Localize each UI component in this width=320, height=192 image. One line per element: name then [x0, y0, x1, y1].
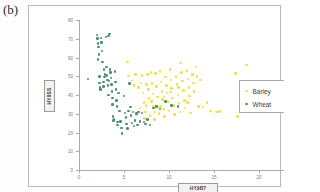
scatter-point-barley: [177, 86, 180, 89]
scatter-point-wheat: [120, 127, 123, 130]
scatter-point-barley: [131, 80, 134, 83]
scatter-point-barley: [159, 70, 162, 73]
scatter-point-barley: [126, 61, 129, 64]
scatter-point-barley: [218, 110, 221, 113]
scatter-point-barley: [186, 101, 189, 104]
scatter-point-wheat: [133, 125, 136, 128]
scatter-point-wheat: [141, 112, 144, 115]
scatter-point-barley: [191, 73, 194, 76]
legend-label-barley: Barley: [253, 88, 271, 95]
scatter-point-wheat: [139, 120, 142, 123]
scatter-point-barley: [245, 64, 248, 67]
y-tick-label: 30: [68, 111, 73, 116]
scatter-point-wheat: [115, 88, 118, 91]
scatter-point-wheat: [125, 123, 128, 126]
scatter-point-barley: [179, 62, 182, 65]
scatter-point-barley: [192, 82, 195, 85]
scatter-point-wheat: [121, 132, 124, 135]
scatter-point-barley: [141, 74, 144, 77]
legend-marker-wheat: [245, 103, 248, 106]
scatter-point-barley: [154, 72, 157, 75]
scatter-point-barley: [145, 83, 148, 86]
scatter-point-barley: [149, 114, 152, 117]
scatter-point-barley: [196, 75, 199, 78]
scatter-point-wheat: [136, 124, 139, 127]
x-tick: 10: [169, 170, 170, 173]
scatter-point-wheat: [98, 82, 101, 85]
scatter-point-wheat: [97, 42, 100, 45]
scatter-point-wheat: [132, 111, 135, 114]
scatter-point-barley: [177, 94, 180, 97]
scatter-point-barley: [155, 85, 158, 88]
x-axis-title: HY9B7: [178, 183, 218, 192]
scatter-point-wheat: [117, 92, 120, 95]
scatter-point-wheat: [159, 108, 162, 111]
scatter-point-barley: [163, 115, 166, 118]
legend-label-wheat: Wheat: [253, 101, 271, 108]
scatter-point-barley: [151, 82, 154, 85]
scatter-point-wheat: [101, 50, 104, 53]
scatter-point-barley: [164, 76, 167, 79]
scatter-point-barley: [173, 113, 176, 116]
scatter-point-wheat: [97, 46, 100, 49]
scatter-point-wheat: [87, 78, 90, 81]
scatter-point-barley: [179, 111, 182, 114]
scatter-point-barley: [142, 92, 145, 95]
scatter-point-wheat: [137, 111, 140, 114]
scatter-point-wheat: [100, 41, 103, 44]
scatter-point-wheat: [110, 83, 113, 86]
scatter-point-wheat: [127, 110, 130, 113]
scatter-point-barley: [156, 96, 159, 99]
scatter-point-wheat: [111, 103, 114, 106]
x-tick-label: 10: [166, 175, 171, 180]
scatter-point-wheat: [98, 53, 101, 56]
scatter-point-wheat: [124, 112, 127, 115]
scatter-point-wheat: [102, 81, 105, 84]
scatter-point-wheat: [107, 84, 110, 87]
scatter-point-wheat: [110, 77, 113, 80]
y-tick-label: 60: [68, 55, 73, 60]
scatter-point-barley: [193, 90, 196, 93]
scatter-point-wheat: [126, 127, 129, 130]
scatter-point-wheat: [149, 124, 152, 127]
scatter-point-barley: [197, 105, 200, 108]
scatter-point-wheat: [99, 88, 102, 91]
scatter-point-wheat: [114, 70, 117, 73]
x-tick: 15: [214, 170, 215, 173]
scatter-point-barley: [165, 84, 168, 87]
scatter-point-barley: [127, 75, 130, 78]
scatter-point-barley: [234, 72, 237, 75]
y-tick-label: 20: [68, 130, 73, 135]
y-axis-title-wrap: HY9SS: [39, 82, 71, 94]
scatter-point-barley: [199, 79, 202, 82]
y-tick: 20: [76, 133, 79, 134]
scatter-point-barley: [184, 107, 187, 110]
scatter-point-wheat: [116, 124, 119, 127]
scatter-point-barley: [153, 118, 156, 121]
figure-frame: 01020304050607080 0510152025 HY9B7 HY9SS…: [28, 5, 281, 187]
scatter-point-wheat: [129, 106, 132, 109]
scatter-point-wheat: [155, 105, 158, 108]
y-tick: 40: [76, 95, 79, 96]
scatter-point-barley: [170, 87, 173, 90]
scatter-point-barley: [145, 104, 148, 107]
scatter-point-barley: [161, 90, 164, 93]
scatter-point-barley: [160, 81, 163, 84]
legend-item-wheat: Wheat: [245, 99, 271, 109]
y-tick: 70: [76, 39, 79, 40]
y-tick-label: 80: [68, 18, 73, 23]
scatter-point-barley: [134, 73, 137, 76]
y-tick-label: 50: [68, 74, 73, 79]
scatter-point-wheat: [177, 105, 180, 108]
scatter-point-wheat: [164, 100, 167, 103]
scatter-point-wheat: [130, 114, 133, 117]
scatter-point-barley: [139, 107, 142, 110]
x-tick-label: 20: [256, 175, 261, 180]
scatter-point-wheat: [97, 58, 100, 61]
scatter-point-barley: [181, 80, 184, 83]
scatter-point-wheat: [118, 110, 121, 113]
scatter-point-barley: [133, 84, 136, 87]
scatter-point-wheat: [102, 85, 105, 88]
x-tick: 20: [259, 170, 260, 173]
scatter-point-wheat: [96, 34, 99, 37]
